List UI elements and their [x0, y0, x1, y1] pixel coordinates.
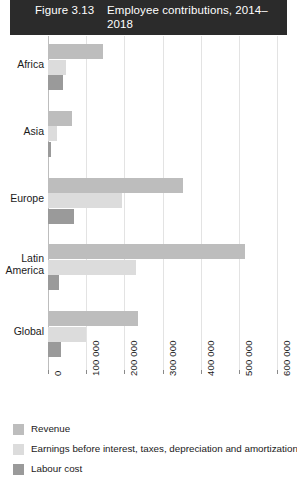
bar-group	[48, 44, 277, 90]
x-axis-tick	[124, 370, 125, 374]
bar[interactable]	[48, 342, 61, 357]
x-axis-tick	[239, 370, 240, 374]
bar[interactable]	[48, 209, 74, 224]
bar-group	[48, 244, 277, 290]
x-axis-tick-label: 0	[52, 371, 63, 376]
bar[interactable]	[48, 60, 66, 75]
legend-item[interactable]: Labour cost	[13, 461, 293, 481]
figure-number: Figure 3.13	[35, 4, 94, 16]
bar[interactable]	[48, 311, 138, 326]
category-label: Europe	[0, 193, 44, 205]
x-axis: 0100 000200 000300 000400 000500 000600 …	[48, 370, 277, 372]
x-axis-tick-label: 100 000	[90, 340, 101, 376]
category-label: Latin America	[0, 253, 44, 276]
figure-title: Employee contributions, 2014–2018	[107, 4, 277, 31]
bar[interactable]	[48, 111, 72, 126]
bar-group	[48, 111, 277, 157]
x-axis-tick	[201, 370, 202, 374]
category-label: Asia	[0, 126, 44, 138]
x-axis-tick-label: 200 000	[128, 340, 139, 376]
chart-plot-area	[48, 36, 277, 370]
x-axis-tick	[86, 370, 87, 374]
x-axis-tick-label: 600 000	[281, 340, 292, 376]
x-axis-tick-label: 300 000	[167, 340, 178, 376]
category-label: Africa	[0, 59, 44, 71]
legend-swatch-ebitda	[13, 444, 24, 455]
x-axis-tick-label: 500 000	[243, 340, 254, 376]
x-axis-tick	[48, 370, 49, 374]
bar[interactable]	[48, 275, 59, 290]
bar[interactable]	[48, 126, 57, 141]
legend-swatch-revenue	[13, 424, 24, 435]
bar-group	[48, 178, 277, 224]
bar[interactable]	[48, 244, 245, 259]
legend-item[interactable]: Revenue	[13, 421, 293, 441]
legend-swatch-labour	[13, 464, 24, 475]
bar[interactable]	[48, 44, 103, 59]
x-axis-tick	[163, 370, 164, 374]
bar[interactable]	[48, 178, 183, 193]
legend-label: Revenue	[31, 422, 70, 436]
bar[interactable]	[48, 260, 136, 275]
chart-legend: RevenueEarnings before interest, taxes, …	[13, 421, 293, 481]
legend-label: Earnings before interest, taxes, depreci…	[31, 442, 297, 456]
legend-item[interactable]: Earnings before interest, taxes, depreci…	[13, 441, 293, 461]
bar[interactable]	[48, 327, 86, 342]
gridline	[277, 36, 278, 370]
category-label: Global	[0, 326, 44, 338]
bar[interactable]	[48, 193, 122, 208]
x-axis-tick	[277, 370, 278, 374]
bar[interactable]	[48, 75, 63, 90]
x-axis-tick-label: 400 000	[205, 340, 216, 376]
legend-label: Labour cost	[31, 462, 82, 476]
bar[interactable]	[48, 142, 51, 157]
figure-header-band: Figure 3.13 Employee contributions, 2014…	[10, 0, 287, 35]
